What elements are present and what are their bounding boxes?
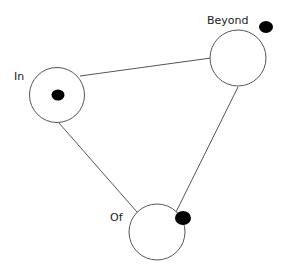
edge-in-beyond [80,58,211,76]
node-label: Of [110,211,124,224]
network-diagram: In Beyond Of [0,0,285,276]
node-label: Beyond [207,14,249,27]
edge-in-of [59,123,137,212]
node-in: In [14,68,85,123]
node-circle [129,204,185,260]
marker-dot [52,90,65,101]
node-of: Of [110,204,191,260]
node-label: In [14,70,24,83]
marker-dot [175,211,191,225]
node-beyond: Beyond [207,14,273,86]
node-circle [210,30,266,86]
edge-beyond-of [176,87,238,212]
marker-dot [259,21,273,33]
